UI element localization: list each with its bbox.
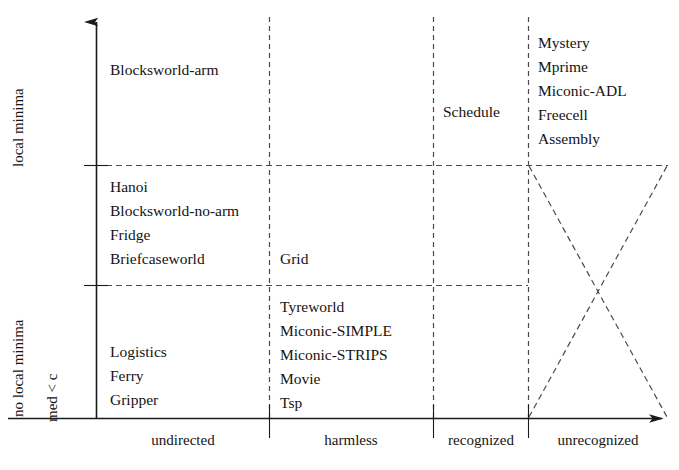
domain-entry: Mystery [538,31,627,55]
x-axis-label-recognized: recognized [422,432,540,449]
cell-no-local-minima-undirected: HanoiBlocksworld-no-armFridgeBriefcasewo… [110,175,239,271]
domain-entry: Grid [280,247,308,271]
y-axis-label-local-minima: local minima [10,88,27,167]
taxonomy-chart: local minima no local minima med < c und… [0,0,679,470]
cell-med-lt-c-undirected: LogisticsFerryGripper [110,340,167,412]
x-axis-label-undirected: undirected [117,432,249,449]
domain-entry: Miconic-SIMPLE [280,319,392,343]
domain-entry: Tsp [280,391,392,415]
cell-no-local-minima-harmless: Grid [280,247,308,271]
domain-entry: Logistics [110,340,167,364]
x-axis-label-unrecognized: unrecognized [528,432,668,449]
domain-entry: Schedule [443,100,500,124]
exclusion-cross-line-down [529,166,667,417]
domain-entry: Ferry [110,364,167,388]
cell-local-minima-recognized: Schedule [443,100,500,124]
x-axis-label-harmless: harmless [285,432,417,449]
domain-entry: Movie [280,367,392,391]
domain-entry: Fridge [110,223,239,247]
domain-entry: Hanoi [110,175,239,199]
exclusion-cross-line-up [529,166,667,417]
domain-entry: Briefcaseworld [110,247,239,271]
domain-entry: Miconic-ADL [538,79,627,103]
domain-entry: Gripper [110,388,167,412]
y-axis-label-no-local-minima: no local minima [10,320,27,417]
domain-entry: Tyreworld [280,295,392,319]
cell-med-lt-c-harmless: TyreworldMiconic-SIMPLEMiconic-STRIPSMov… [280,295,392,415]
domain-entry: Freecell [538,103,627,127]
y-axis-label-med-lt-c: med < c [44,374,61,422]
cell-local-minima-unrecognized: MysteryMprimeMiconic-ADLFreecellAssembly [538,31,627,151]
cell-local-minima-undirected: Blocksworld-arm [110,58,218,82]
domain-entry: Miconic-STRIPS [280,343,392,367]
domain-entry: Assembly [538,127,627,151]
domain-entry: Mprime [538,55,627,79]
domain-entry: Blocksworld-no-arm [110,199,239,223]
domain-entry: Blocksworld-arm [110,58,218,82]
